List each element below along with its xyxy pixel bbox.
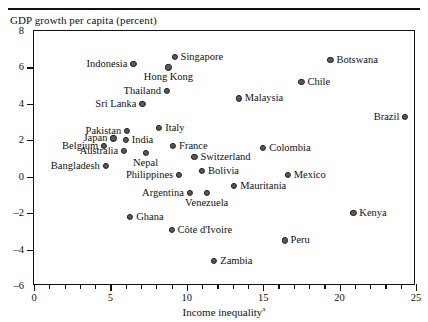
data-point-label: Nepal [133, 158, 158, 169]
data-point-marker [127, 214, 133, 220]
data-point-marker [168, 226, 174, 232]
x-tick-mark-minor [401, 284, 402, 289]
data-point-marker [124, 128, 130, 134]
y-tick-mark [27, 177, 34, 178]
y-tick-label: 0 [19, 171, 24, 182]
data-point-label: Ghana [136, 212, 163, 223]
data-point-marker [281, 237, 287, 243]
data-point-label: Sri Lanka [95, 99, 136, 110]
x-axis-title-text: Income inequality [183, 306, 263, 318]
data-point-marker [199, 168, 205, 174]
data-point-marker [156, 124, 162, 130]
data-point-marker [236, 95, 242, 101]
x-tick-label: 0 [31, 293, 36, 304]
data-point-marker [231, 183, 237, 189]
data-point-label: Zambia [220, 255, 252, 266]
x-tick-mark-minor [324, 284, 325, 289]
data-point-label: Hong Kong [144, 72, 193, 83]
x-tick-mark-minor [217, 284, 218, 289]
x-tick-mark-minor [156, 284, 157, 289]
data-point-label: Bolivia [208, 166, 239, 177]
top-rule-divider [8, 8, 420, 10]
data-point-label: India [132, 135, 154, 146]
data-point-label: Singapore [181, 51, 224, 62]
data-point-marker [123, 137, 129, 143]
data-point-marker [350, 210, 356, 216]
x-tick-mark-minor [202, 284, 203, 289]
data-point-marker [187, 190, 193, 196]
x-tick-mark-major [187, 284, 188, 291]
data-point-label: Switzerland [200, 151, 250, 162]
x-tick-mark-minor [370, 284, 371, 289]
data-point-label: Philippines [126, 170, 173, 181]
data-point-label: Chile [307, 77, 330, 88]
x-tick-mark-minor [294, 284, 295, 289]
y-tick-label: –2 [14, 208, 25, 219]
x-tick-mark-minor [49, 284, 50, 289]
data-point-marker [170, 143, 176, 149]
data-point-label: Malaysia [245, 93, 284, 104]
y-tick-label: 2 [19, 135, 24, 146]
x-tick-mark-minor [141, 284, 142, 289]
data-point-label: Argentina [142, 188, 184, 199]
data-point-label: Australia [80, 146, 119, 157]
plot-canvas: 86420–2–4–60510152025SingaporeHong KongI… [34, 31, 414, 284]
x-tick-label: 20 [334, 293, 345, 304]
data-point-marker [142, 150, 148, 156]
data-point-label: Italy [165, 122, 184, 133]
data-point-marker [176, 172, 182, 178]
data-point-label: Mauritania [240, 181, 286, 192]
x-tick-mark-major [340, 284, 341, 291]
x-tick-label: 10 [182, 293, 193, 304]
data-point-label: Botswana [336, 55, 377, 66]
data-point-marker [103, 163, 109, 169]
data-point-label: Indonesia [86, 59, 127, 70]
data-point-label: Colombia [269, 142, 310, 153]
data-point-label: Venezuela [185, 198, 228, 209]
data-point-label: Mexico [294, 170, 326, 181]
y-tick-label: 8 [19, 26, 24, 37]
data-point-label: Brazil [374, 111, 400, 122]
data-point-marker [110, 135, 116, 141]
x-axis-title: Income inequalitya [33, 305, 415, 318]
data-point-marker [164, 88, 170, 94]
data-point-marker [165, 64, 171, 70]
data-point-label: Thailand [124, 86, 161, 97]
data-point-label: Bangladesh [51, 161, 100, 172]
x-axis-footnote-marker: a [262, 305, 265, 313]
x-tick-mark-minor [233, 284, 234, 289]
x-tick-mark-minor [385, 284, 386, 289]
x-tick-mark-minor [355, 284, 356, 289]
y-tick-label: –6 [14, 281, 25, 292]
data-point-label: Côte d'Ivoire [178, 224, 233, 235]
x-tick-label: 25 [411, 293, 422, 304]
y-tick-mark [27, 140, 34, 141]
x-tick-mark-minor [172, 284, 173, 289]
x-tick-label: 15 [258, 293, 269, 304]
y-tick-label: 4 [19, 99, 24, 110]
data-point-label: Kenya [359, 208, 386, 219]
x-tick-mark-major [416, 284, 417, 291]
data-point-marker [121, 148, 127, 154]
data-point-marker [204, 190, 210, 196]
x-tick-mark-major [110, 284, 111, 291]
y-tick-label: 6 [19, 62, 24, 73]
data-point-marker [171, 53, 177, 59]
x-tick-mark-minor [80, 284, 81, 289]
y-tick-mark [27, 104, 34, 105]
data-point-marker [298, 79, 304, 85]
y-tick-mark [27, 250, 34, 251]
data-point-marker [130, 61, 136, 67]
data-point-label: Peru [291, 235, 310, 246]
y-tick-label: –4 [14, 244, 25, 255]
data-point-marker [139, 101, 145, 107]
y-tick-mark [27, 67, 34, 68]
x-tick-mark-major [263, 284, 264, 291]
data-point-marker [327, 57, 333, 63]
x-tick-mark-major [34, 284, 35, 291]
data-point-marker [402, 114, 408, 120]
y-axis-title: GDP growth per capita (percent) [10, 14, 157, 26]
x-tick-mark-minor [95, 284, 96, 289]
x-tick-mark-minor [278, 284, 279, 289]
data-point-marker [191, 154, 197, 160]
